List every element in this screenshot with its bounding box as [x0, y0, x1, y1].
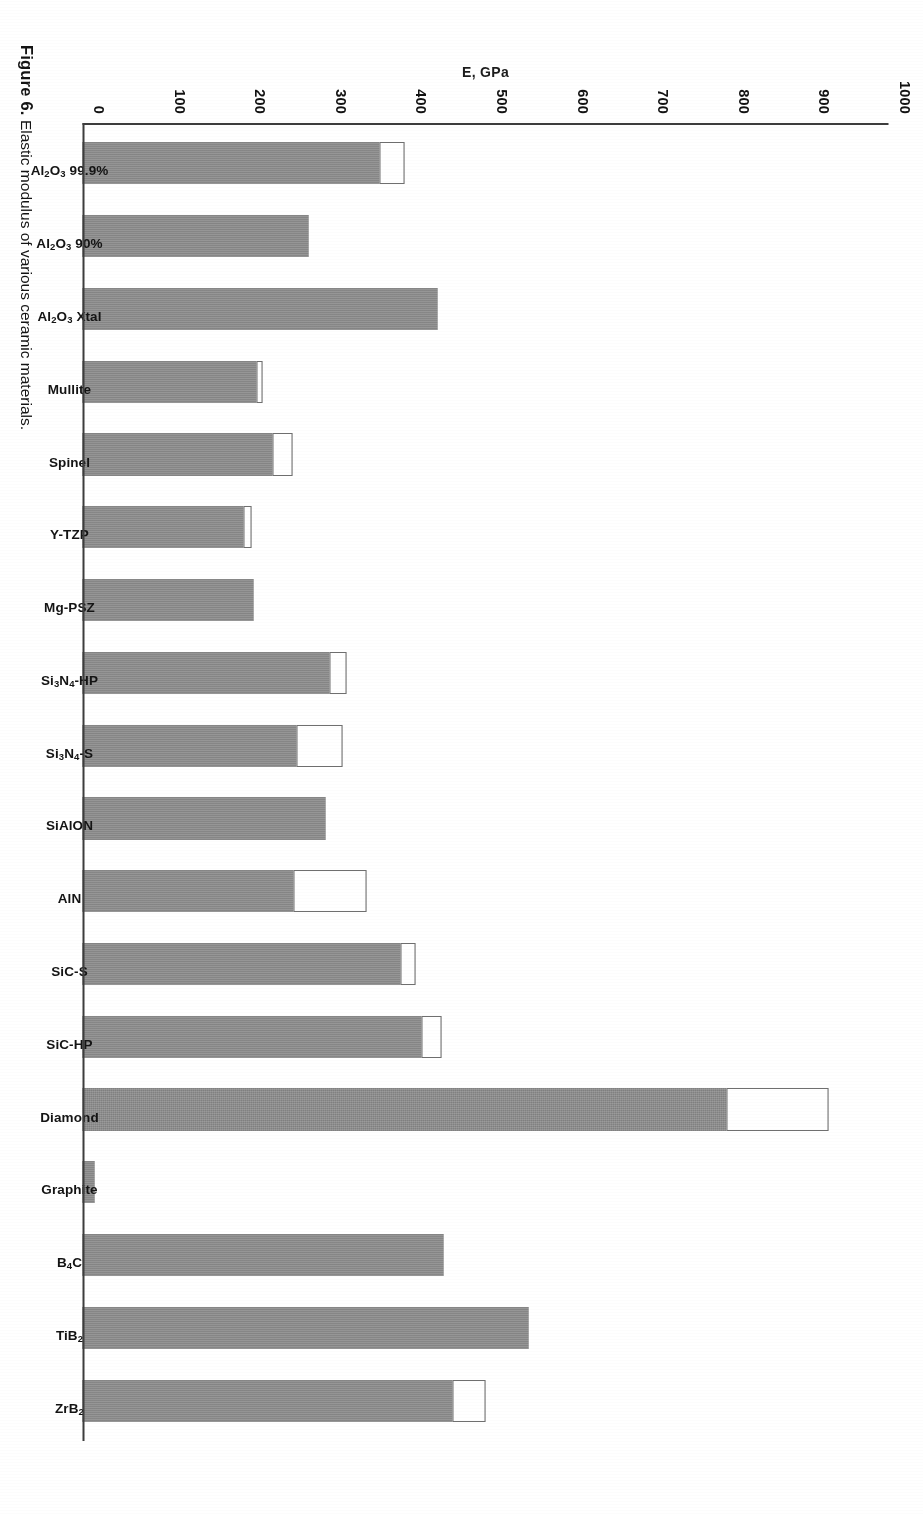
- y-axis-tick-100: 100: [171, 89, 187, 114]
- category-label-sic-hp: SiC-HP: [46, 1037, 92, 1052]
- y-axis-tick-400: 400: [412, 89, 428, 114]
- category-label-si3n4-hp: Si3N4-HP: [40, 673, 97, 688]
- bar-typical-value-segment: [82, 288, 437, 330]
- figure-caption: Figure 6. Elastic modulus of various cer…: [15, 45, 36, 1465]
- bar-spinel[interactable]: [82, 433, 292, 475]
- category-label-si3n4-s: Si3N4-S: [45, 746, 92, 761]
- bar-slot: Si3N4-S: [82, 709, 888, 782]
- bar-slot: Al2O3 99.9%: [82, 127, 888, 200]
- bar-typical-value-segment: [82, 870, 293, 912]
- bar-al2o3-99-9[interactable]: [82, 142, 404, 184]
- category-label-mullite: Mullite: [47, 382, 90, 397]
- x-axis-line: [82, 123, 84, 1441]
- bar-typical-value-segment: [82, 652, 329, 694]
- bar-si3n4-hp[interactable]: [82, 652, 346, 694]
- bar-b4c[interactable]: [82, 1234, 443, 1276]
- bar-slot: Mg-PSZ: [82, 564, 888, 637]
- bar-typical-value-segment: [82, 1234, 443, 1276]
- bar-si3n4-s[interactable]: [82, 725, 342, 767]
- y-axis-tick-600: 600: [574, 89, 590, 114]
- category-label-b4c: B4C: [56, 1255, 81, 1270]
- bar-al2o3-xtal[interactable]: [82, 288, 437, 330]
- category-label-al2o3-90: Al2O3 90%: [36, 236, 102, 251]
- bar-slot: Y-TZP: [82, 491, 888, 564]
- bar-slot: SiC-HP: [82, 1000, 888, 1073]
- bar-upper-range-cap: [243, 506, 251, 548]
- bar-al2o3-90[interactable]: [82, 215, 308, 257]
- bar-slot: B4C: [82, 1219, 888, 1292]
- y-axis-tick-500: 500: [493, 89, 509, 114]
- bar-mullite[interactable]: [82, 361, 262, 403]
- bar-typical-value-segment: [82, 725, 296, 767]
- y-axis-tick-1000: 1000: [896, 81, 912, 114]
- category-label-diamond: Diamond: [40, 1110, 98, 1125]
- bar-slot: SiAlON: [82, 782, 888, 855]
- bar-slot: Mullite: [82, 345, 888, 418]
- bar-upper-range-cap: [726, 1088, 828, 1130]
- bar-sic-hp[interactable]: [82, 1016, 441, 1058]
- bar-slot: Graphite: [82, 1146, 888, 1219]
- bar-typical-value-segment: [82, 1380, 452, 1422]
- bar-upper-range-cap: [296, 725, 343, 767]
- bar-upper-range-cap: [272, 433, 291, 475]
- bar-slot: Al2O3 90%: [82, 200, 888, 273]
- bar-slot: Diamond: [82, 1073, 888, 1146]
- bar-aln[interactable]: [82, 870, 366, 912]
- bar-typical-value-segment: [82, 943, 400, 985]
- y-axis-tick-300: 300: [332, 89, 348, 114]
- figure-number: Figure 6.: [17, 45, 35, 116]
- bar-tib2[interactable]: [82, 1307, 528, 1349]
- bar-typical-value-segment: [82, 506, 243, 548]
- bar-upper-range-cap: [293, 870, 366, 912]
- category-label-graphite: Graphite: [41, 1182, 97, 1197]
- bar-upper-range-cap: [452, 1380, 485, 1422]
- category-label-al2o3-xtal: Al2O3 Xtal: [37, 309, 101, 324]
- bar-slot: SiC-S: [82, 928, 888, 1001]
- bar-upper-range-cap: [400, 943, 415, 985]
- category-label-al2o3-99-9: Al2O3 99.9%: [30, 163, 108, 178]
- bar-upper-range-cap: [329, 652, 346, 694]
- y-axis-title: E, GPa: [462, 64, 509, 80]
- bar-diamond[interactable]: [82, 1088, 828, 1130]
- y-axis-tick-900: 900: [815, 89, 831, 114]
- bar-group: Al2O3 99.9%Al2O3 90%Al2O3 XtalMulliteSpi…: [82, 123, 888, 1441]
- category-label-zrb2: ZrB2: [55, 1401, 84, 1416]
- figure-stage: E, GPa Material 010020030040050060070080…: [9, 27, 914, 1487]
- y-axis-tick-800: 800: [735, 89, 751, 114]
- bar-slot: TiB2: [82, 1292, 888, 1365]
- y-axis-tick-0: 0: [90, 106, 106, 114]
- bar-zrb2[interactable]: [82, 1380, 485, 1422]
- bar-slot: Al2O3 Xtal: [82, 273, 888, 346]
- y-axis-line: [82, 123, 888, 125]
- bar-typical-value-segment: [82, 433, 272, 475]
- bar-typical-value-segment: [82, 797, 325, 839]
- category-label-sialon: SiAlON: [45, 818, 92, 833]
- bar-typical-value-segment: [82, 361, 256, 403]
- bar-typical-value-segment: [82, 142, 379, 184]
- category-label-aln: AlN: [57, 891, 81, 906]
- bar-typical-value-segment: [82, 1307, 528, 1349]
- bar-y-tzp[interactable]: [82, 506, 251, 548]
- category-label-tib2: TiB2: [55, 1328, 82, 1343]
- bar-upper-range-cap: [379, 142, 404, 184]
- bar-upper-range-cap: [421, 1016, 441, 1058]
- y-axis-tick-200: 200: [251, 89, 267, 114]
- bar-slot: ZrB2: [82, 1364, 888, 1437]
- bar-chart-plot-area: E, GPa Material 010020030040050060070080…: [82, 123, 888, 1441]
- bar-typical-value-segment: [82, 579, 253, 621]
- bar-typical-value-segment: [82, 215, 308, 257]
- bar-typical-value-segment: [82, 1016, 421, 1058]
- y-axis-tick-700: 700: [654, 89, 670, 114]
- bar-typical-value-segment: [82, 1088, 726, 1130]
- bar-slot: Si3N4-HP: [82, 636, 888, 709]
- figure-caption-text: Elastic modulus of various ceramic mater…: [17, 120, 34, 430]
- bar-sic-s[interactable]: [82, 943, 415, 985]
- bar-upper-range-cap: [256, 361, 262, 403]
- bar-sialon[interactable]: [82, 797, 325, 839]
- bar-slot: Spinel: [82, 418, 888, 491]
- category-label-mg-psz: Mg-PSZ: [44, 600, 95, 615]
- bar-slot: AlN: [82, 855, 888, 928]
- bar-mg-psz[interactable]: [82, 579, 253, 621]
